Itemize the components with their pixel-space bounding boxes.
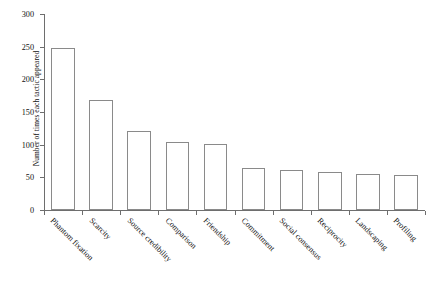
y-axis-tick-label: 150 <box>22 108 34 117</box>
y-axis-tick: 250 <box>40 47 44 48</box>
x-axis-tick <box>425 211 426 215</box>
y-axis-tick-label: 100 <box>22 140 34 149</box>
plot-area: 050100150200250300 <box>44 14 425 211</box>
y-axis-tick-label: 0 <box>30 206 34 215</box>
x-axis-tick <box>120 211 121 215</box>
bar <box>242 168 266 210</box>
bar <box>89 100 113 210</box>
x-axis-tick <box>387 211 388 215</box>
x-axis-tick <box>196 211 197 215</box>
y-axis-tick: 200 <box>40 79 44 80</box>
y-axis-tick: 50 <box>40 177 44 178</box>
bar <box>166 142 190 210</box>
x-axis-tick <box>311 211 312 215</box>
x-axis-tick <box>44 211 45 215</box>
y-axis-tick-label: 50 <box>26 173 34 182</box>
bar <box>356 174 380 210</box>
x-axis-tick-label: Scarcity <box>87 216 112 241</box>
cropped-caption-text <box>86 282 354 285</box>
x-axis-tick <box>235 211 236 215</box>
y-axis-tick-label: 200 <box>22 75 34 84</box>
y-axis-tick: 150 <box>40 112 44 113</box>
y-axis-tick: 100 <box>40 145 44 146</box>
x-axis-tick-label: Friendship <box>201 216 232 247</box>
x-axis-tick-label: Profiling <box>392 216 419 243</box>
bar <box>394 175 418 210</box>
y-axis-tick-label: 250 <box>22 42 34 51</box>
x-axis-tick <box>158 211 159 215</box>
y-axis-line <box>44 14 45 211</box>
bar <box>51 48 75 210</box>
x-axis-tick <box>82 211 83 215</box>
x-axis-tick-label: Comparison <box>163 216 198 251</box>
bar <box>318 172 342 210</box>
x-axis-tick-label: Commitment <box>240 216 277 253</box>
x-axis-tick-label: Reciprocity <box>316 216 349 249</box>
x-axis-tick <box>349 211 350 215</box>
bar <box>204 144 228 210</box>
y-axis-tick-label: 300 <box>22 10 34 19</box>
y-axis-tick: 300 <box>40 14 44 15</box>
x-axis-tick <box>273 211 274 215</box>
bar-chart-figure: Number of times each tactic appeared 050… <box>0 0 430 289</box>
bar <box>280 170 304 210</box>
bar <box>127 131 151 210</box>
x-axis-tick-label: Landscaping <box>354 216 390 252</box>
